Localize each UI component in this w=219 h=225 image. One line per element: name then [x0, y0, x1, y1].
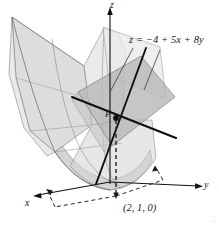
- dashed-arrow-x: [46, 189, 53, 196]
- point-coordinates-label: (2, 1, 0): [123, 203, 156, 214]
- dashed-rect-edge-x: [48, 192, 55, 207]
- y-axis-arrowhead: [195, 183, 203, 189]
- plane-equation-label: z = −4 + 5x + 8y: [129, 35, 204, 46]
- surface-back-wing: [12, 17, 92, 152]
- point-p-label: P: [105, 110, 111, 120]
- dashed-base-to-x: [55, 196, 116, 207]
- y-axis-label: y: [204, 180, 208, 190]
- x-axis-arrowhead: [33, 193, 42, 199]
- figure-container: z = −4 + 5x + 8y (2, 1, 0) z y x P 2: [0, 0, 219, 225]
- x-axis-label: x: [25, 198, 29, 208]
- page-number-artifact: 2: [212, 215, 216, 224]
- z-axis-label: z: [110, 1, 114, 11]
